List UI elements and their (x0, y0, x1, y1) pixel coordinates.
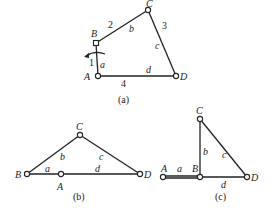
figure-a: A B C D 1 2 3 4 a b c d (a) (83, 0, 188, 106)
link-1-crank-a (96, 43, 98, 76)
label-link-3: 3 (162, 20, 167, 31)
joint-d (137, 171, 142, 176)
label-joint-a: A (56, 181, 64, 192)
label-length-b: b (129, 23, 134, 34)
label-length-a: a (100, 59, 105, 70)
label-joint-b: B (15, 169, 21, 180)
label-link-2: 2 (108, 19, 113, 30)
link-2-coupler-b (96, 10, 148, 43)
caption-c: (c) (215, 191, 226, 203)
label-joint-c: C (146, 0, 153, 9)
caption-a: (a) (118, 94, 129, 106)
joint-c (197, 116, 202, 121)
joint-b (197, 174, 202, 179)
label-length-a: a (177, 163, 182, 174)
label-joint-d: D (143, 169, 152, 180)
joint-d (173, 73, 178, 78)
label-length-c: c (99, 151, 104, 162)
label-link-4: 4 (121, 78, 126, 89)
caption-b: (b) (73, 191, 85, 203)
joint-b (94, 41, 99, 46)
label-length-b: b (60, 151, 65, 162)
link-b (27, 135, 80, 174)
joint-d (244, 174, 249, 179)
joint-a (160, 174, 165, 179)
label-joint-b: B (91, 28, 97, 39)
label-length-c: c (155, 40, 160, 51)
label-joint-a: A (83, 71, 91, 82)
figure-b: B A C D a b c d (b) (15, 121, 152, 203)
label-joint-d: D (179, 71, 188, 82)
four-bar-linkage-diagram: A B C D 1 2 3 4 a b c d (a) B A C D a b … (0, 0, 280, 216)
label-joint-c: C (76, 121, 83, 132)
joint-b (24, 171, 29, 176)
joint-a (58, 171, 63, 176)
figure-c: A B C D a b c d (c) (160, 105, 259, 203)
label-link-1: 1 (89, 57, 94, 68)
label-joint-c: C (196, 105, 203, 116)
label-length-a: a (45, 163, 50, 174)
link-c (80, 135, 140, 174)
joint-c (77, 132, 82, 137)
label-joint-b: B (192, 163, 198, 174)
label-joint-a: A (160, 163, 168, 174)
label-joint-d: D (250, 172, 259, 183)
label-length-b: b (203, 146, 208, 157)
label-length-d: d (146, 64, 152, 75)
label-length-d: d (221, 179, 227, 190)
label-length-d: d (95, 163, 101, 174)
label-length-c: c (222, 149, 227, 160)
joint-a (95, 73, 100, 78)
